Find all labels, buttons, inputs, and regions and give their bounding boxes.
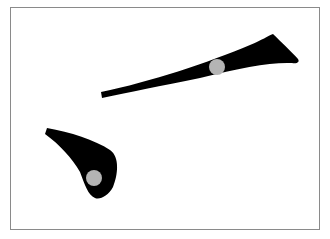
strokes-canvas [0, 0, 330, 239]
upper-brush-stroke [101, 34, 299, 98]
lower-brush-stroke [45, 128, 117, 199]
lower-marker-circle [86, 170, 102, 186]
upper-marker-circle [209, 59, 225, 75]
